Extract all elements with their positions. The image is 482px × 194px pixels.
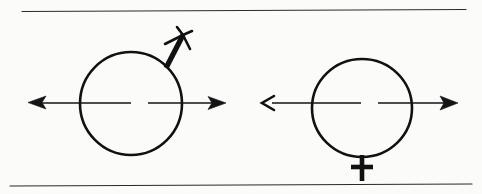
diagram-svg	[0, 0, 482, 194]
diagram-canvas: Mars and Venus symbols with horizontal d…	[0, 0, 482, 194]
